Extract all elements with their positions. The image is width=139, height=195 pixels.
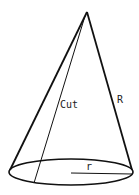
cone-left-edge <box>10 12 87 170</box>
slant-height-label: R <box>117 95 123 105</box>
cone-base-ellipse <box>9 159 133 185</box>
cone-diagram: Cut R r <box>0 0 139 195</box>
radius-label: r <box>86 162 92 172</box>
cone-right-edge <box>87 12 132 170</box>
radius-line <box>71 173 132 174</box>
cut-label: Cut <box>60 100 78 110</box>
